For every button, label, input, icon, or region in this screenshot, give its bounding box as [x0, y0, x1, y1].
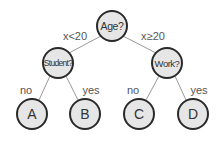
node-leaf-b-label: B	[80, 106, 89, 122]
node-leaf-d-label: D	[188, 106, 198, 122]
edge-left-a	[39, 76, 50, 100]
decision-tree-diagram: x<20 x≥20 no yes no yes Age? Student? Wo…	[0, 0, 221, 145]
decision-tree-canvas: x<20 x≥20 no yes no yes Age? Student? Wo…	[0, 0, 221, 145]
node-leaf-a: A	[17, 99, 47, 129]
node-work-label: Work?	[155, 58, 180, 69]
edge-label-root-left: x<20	[63, 30, 87, 42]
node-leaf-b: B	[70, 99, 100, 129]
node-leaf-c-label: C	[134, 106, 144, 122]
node-student: Student?	[43, 48, 73, 78]
edge-right-c	[146, 76, 159, 100]
node-leaf-c: C	[124, 99, 154, 129]
node-age: Age?	[97, 11, 127, 41]
edge-label-left-a: no	[20, 84, 32, 96]
edge-label-right-c: no	[127, 84, 139, 96]
edge-left-b	[66, 76, 78, 100]
node-student-label: Student?	[44, 58, 73, 68]
node-work: Work?	[152, 48, 182, 78]
edge-label-left-b: yes	[82, 84, 100, 96]
node-leaf-a-label: A	[27, 106, 37, 122]
edge-right-d	[175, 76, 186, 100]
node-age-label: Age?	[101, 20, 124, 32]
edge-label-root-right: x≥20	[141, 30, 165, 42]
edge-label-right-d: yes	[190, 84, 208, 96]
node-leaf-d: D	[178, 99, 208, 129]
